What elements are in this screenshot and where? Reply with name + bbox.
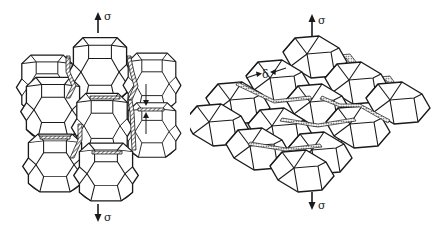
grain-cells — [190, 36, 430, 192]
arrow-down-icon — [309, 202, 316, 210]
stress-label-top: σ — [104, 10, 112, 23]
stress-label-top: σ — [318, 14, 326, 27]
delta-label: δ — [262, 68, 269, 81]
stress-arrow-bottom: σ — [309, 192, 327, 212]
truncated-octahedra-packing-diagram: σ σ — [0, 0, 200, 231]
right-diagram-svg: δ σ σ — [190, 0, 439, 231]
stress-arrow-top: σ — [95, 10, 113, 33]
grain-cells — [16, 38, 181, 201]
arrow-down-icon — [95, 214, 102, 222]
arrow-up-icon — [309, 14, 316, 22]
stress-label-bottom: σ — [104, 211, 112, 224]
rhombic-dodecahedra-packing-diagram: δ σ σ — [190, 0, 439, 231]
stress-arrow-bottom: σ — [95, 204, 113, 224]
left-diagram-svg: σ σ — [0, 0, 200, 231]
stress-label-bottom: σ — [318, 199, 326, 212]
arrow-up-icon — [95, 12, 102, 20]
stress-arrow-top: σ — [309, 14, 327, 36]
